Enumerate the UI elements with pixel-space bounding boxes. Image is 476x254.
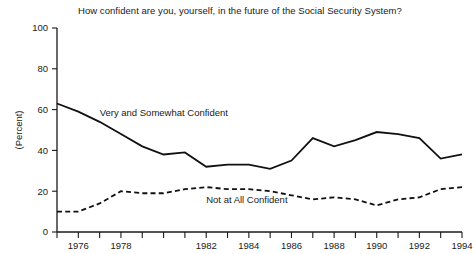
x-tick-label: 1984 xyxy=(238,240,259,251)
x-tick-label: 1986 xyxy=(281,240,302,251)
x-tick-label: 1988 xyxy=(324,240,345,251)
x-tick-label: 1990 xyxy=(366,240,387,251)
x-axis: 197619781982198419861988199019921994 xyxy=(57,232,473,251)
x-tick-label: 1978 xyxy=(110,240,131,251)
x-tick-label: 1976 xyxy=(68,240,89,251)
x-axis-ticks xyxy=(57,232,462,238)
chart-plot-area: 020406080100 (Percent) 19761978198219841… xyxy=(0,0,476,254)
y-axis-ticks xyxy=(52,28,57,232)
series-label: Not at All Confident xyxy=(206,194,288,205)
x-tick-label: 1994 xyxy=(451,240,472,251)
y-tick-label: 40 xyxy=(37,145,48,156)
y-tick-label: 20 xyxy=(37,186,48,197)
y-tick-label: 0 xyxy=(43,226,48,237)
y-tick-label: 60 xyxy=(37,104,48,115)
y-axis: 020406080100 (Percent) xyxy=(13,22,57,237)
x-axis-tick-labels: 197619781982198419861988199019921994 xyxy=(68,240,473,251)
y-tick-label: 80 xyxy=(37,63,48,74)
y-tick-label: 100 xyxy=(32,22,48,33)
series-label: Very and Somewhat Confident xyxy=(100,107,229,118)
chart-figure: How confident are you, yourself, in the … xyxy=(0,0,476,254)
y-axis-title: (Percent) xyxy=(13,110,24,149)
y-axis-tick-labels: 020406080100 xyxy=(32,22,48,237)
x-tick-label: 1982 xyxy=(196,240,217,251)
x-tick-label: 1992 xyxy=(409,240,430,251)
